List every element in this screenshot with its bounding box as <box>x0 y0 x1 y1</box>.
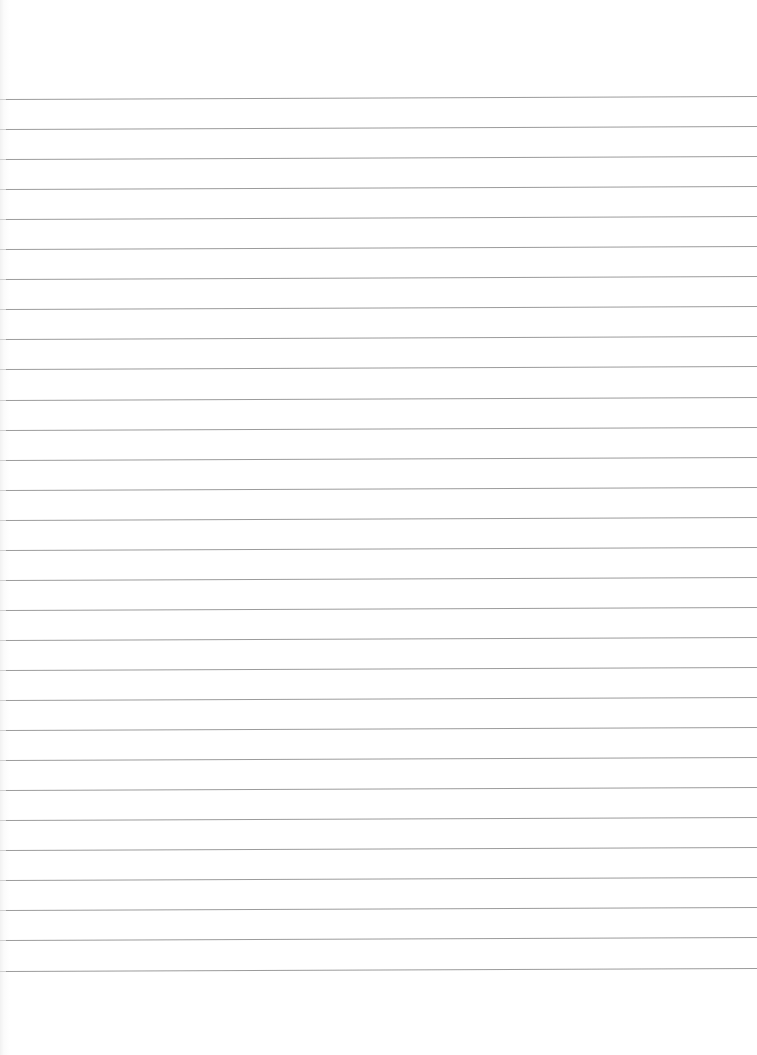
bleed-through-text <box>170 1042 730 1052</box>
ruled-line <box>4 637 757 641</box>
ruled-line <box>4 607 757 611</box>
ruled-line <box>4 216 757 220</box>
ruled-line <box>4 156 757 160</box>
ruled-line <box>4 787 757 791</box>
ruled-line <box>4 517 757 521</box>
ruled-line <box>4 937 757 941</box>
ruled-line <box>4 336 757 340</box>
ruled-line <box>4 427 757 431</box>
ruled-line <box>4 487 757 491</box>
ruled-line <box>4 126 757 130</box>
ruled-line <box>4 757 757 761</box>
ruled-line <box>4 366 757 370</box>
ruled-line <box>4 457 757 461</box>
ruled-line <box>4 817 757 821</box>
ruled-line <box>4 727 757 731</box>
ruled-line <box>4 697 757 701</box>
lined-paper-page <box>0 0 757 1055</box>
ruled-line <box>4 306 757 310</box>
ruled-line <box>4 877 757 881</box>
ruled-line <box>4 967 757 971</box>
ruled-line <box>4 396 757 400</box>
ruled-line <box>4 577 757 581</box>
ruled-line <box>4 276 757 280</box>
ruled-line <box>4 186 757 190</box>
ruled-line <box>4 547 757 551</box>
ruled-line <box>4 667 757 671</box>
ruled-line <box>4 847 757 851</box>
ruled-line <box>4 246 757 250</box>
ruled-line <box>4 96 757 100</box>
ruled-line <box>4 907 757 911</box>
